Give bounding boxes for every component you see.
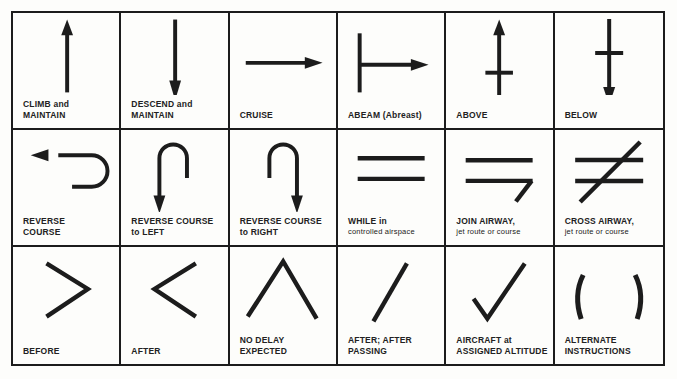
cell-reverse-course-left: REVERSE COURSEto LEFT (121, 130, 229, 247)
cell-reverse-course-right: REVERSE COURSEto RIGHT (230, 130, 338, 247)
symbol-table: CLIMB andMAINTAIN DESCEND andMAINTAIN CR… (11, 11, 665, 366)
cell-no-delay-expected: NO DELAYEXPECTED (230, 247, 338, 364)
label: JOIN AIRWAY,jet route or course (456, 216, 520, 237)
cell-alternate-instructions: ALTERNATEINSTRUCTIONS (555, 247, 663, 364)
reverse-course-icon (13, 130, 119, 212)
label: REVERSE COURSEto RIGHT (240, 216, 322, 237)
cell-reverse-course: REVERSECOURSE (13, 130, 121, 247)
parentheses-icon (555, 247, 663, 329)
cell-aircraft-at-assigned-altitude: AIRCRAFT atASSIGNED ALTITUDE (446, 247, 554, 364)
cell-cruise: CRUISE (230, 13, 338, 130)
label: REVERSE COURSEto LEFT (131, 216, 213, 237)
up-arrow-icon (13, 13, 119, 95)
down-arrow-icon (121, 13, 227, 95)
reverse-right-icon (230, 130, 336, 212)
cell-above: ABOVE (446, 13, 554, 130)
cell-abeam: ABEAM (Abreast) (338, 13, 446, 130)
caret-icon (230, 247, 336, 329)
below-icon (555, 13, 663, 95)
label: ABEAM (Abreast) (348, 110, 422, 121)
cell-before: BEFORE (13, 247, 121, 364)
checkmark-icon (446, 247, 552, 329)
greater-than-icon (13, 247, 119, 329)
label: AFTER; AFTERPASSING (348, 335, 412, 356)
label: WHILE incontrolled airspace (348, 216, 415, 237)
label: REVERSECOURSE (23, 216, 65, 237)
label: CRUISE (240, 110, 273, 121)
cell-while-in: WHILE incontrolled airspace (338, 130, 446, 247)
cell-descend-and-maintain: DESCEND andMAINTAIN (121, 13, 229, 130)
label: DESCEND andMAINTAIN (131, 99, 192, 120)
label: ALTERNATEINSTRUCTIONS (565, 335, 631, 356)
cell-after-passing: AFTER; AFTERPASSING (338, 247, 446, 364)
right-arrow-icon (230, 13, 336, 95)
cell-below: BELOW (555, 13, 663, 130)
less-than-icon (121, 247, 227, 329)
abeam-icon (338, 13, 444, 95)
label: CROSS AIRWAY,jet route or course (565, 216, 634, 237)
above-icon (446, 13, 552, 95)
cell-after: AFTER (121, 247, 229, 364)
cell-climb-and-maintain: CLIMB andMAINTAIN (13, 13, 121, 130)
label: ABOVE (456, 110, 487, 121)
label: CLIMB andMAINTAIN (23, 99, 69, 120)
equals-icon (338, 130, 444, 212)
cell-join-airway: JOIN AIRWAY,jet route or course (446, 130, 554, 247)
cell-cross-airway: CROSS AIRWAY,jet route or course (555, 130, 663, 247)
not-equal-icon (555, 130, 663, 212)
label: BEFORE (23, 346, 60, 357)
label: AFTER (131, 346, 160, 357)
label: AIRCRAFT atASSIGNED ALTITUDE (456, 335, 547, 356)
label: BELOW (565, 110, 598, 121)
slash-icon (338, 247, 444, 329)
label: NO DELAYEXPECTED (240, 335, 287, 356)
join-airway-icon (446, 130, 552, 212)
reverse-left-icon (121, 130, 227, 212)
